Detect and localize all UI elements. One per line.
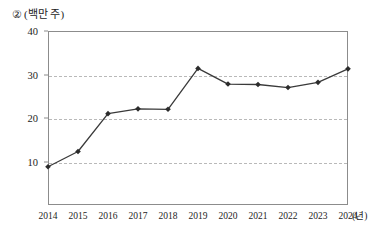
- data-point-marker: [135, 106, 141, 112]
- data-point-marker: [255, 82, 261, 88]
- data-point-marker: [285, 85, 291, 91]
- series-line: [48, 68, 348, 166]
- y-tick-label: 10: [28, 156, 39, 167]
- data-point-marker: [225, 81, 231, 87]
- x-tick-label: 2015: [69, 210, 88, 222]
- y-tick-label: 30: [28, 69, 39, 80]
- figure-number-marker: ②: [12, 8, 22, 20]
- y-axis-unit-label: ②(백만 주): [12, 8, 64, 21]
- x-tick-label: 2016: [99, 210, 118, 222]
- x-axis-unit-label: (년): [352, 210, 367, 222]
- data-point-marker: [345, 66, 351, 72]
- data-point-marker: [315, 80, 321, 86]
- x-tick-label: 2022: [279, 210, 298, 222]
- x-tick-label: 2021: [249, 210, 268, 222]
- x-axis: 2014201520162017201820192020202120222023…: [48, 210, 348, 226]
- series-markers: [45, 66, 351, 170]
- y-axis-unit-text: (백만 주): [24, 8, 64, 20]
- chart-figure: ②(백만 주) 10203040 20142015201620172018201…: [0, 0, 369, 233]
- x-tick-label: 2019: [189, 210, 208, 222]
- y-tick-label: 40: [28, 26, 39, 37]
- y-axis: 10203040: [0, 31, 48, 205]
- x-tick-label: 2023: [309, 210, 328, 222]
- x-tick-label: 2017: [129, 210, 148, 222]
- x-tick-label: 2014: [39, 210, 58, 222]
- x-tick-label: 2020: [219, 210, 238, 222]
- line-series-layer: [48, 31, 348, 205]
- x-tick-label: 2018: [159, 210, 178, 222]
- y-tick-label: 20: [28, 113, 39, 124]
